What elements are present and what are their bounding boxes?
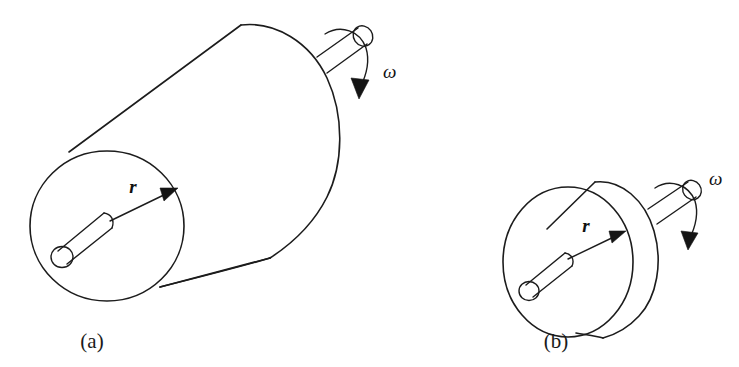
figure-container: ω (a) r — [0, 0, 739, 367]
panel-b-group: ω (b) r — [503, 168, 722, 353]
axle-b-upper-line — [526, 253, 565, 285]
omega-label-a: ω — [383, 61, 396, 82]
cylinder-a-front-axle-stub — [51, 213, 113, 268]
cylinder-a-front-face-circle — [30, 151, 184, 301]
disk-b-rear-cap-arc — [595, 182, 658, 338]
radius-label-b: r — [582, 215, 590, 236]
shaft-b-end-cap — [679, 177, 705, 204]
axle-a-end-cap — [51, 247, 73, 268]
cylinder-a-rear-cap-arc — [241, 25, 340, 258]
shaft-b-lower-line — [657, 197, 696, 224]
panel-a-group: ω (a) r — [30, 22, 396, 353]
radius-b-arrowhead — [609, 231, 626, 243]
omega-label-b: ω — [709, 168, 722, 189]
axle-b-end-cap — [519, 282, 539, 301]
disk-b-front-axle-stub — [519, 253, 573, 301]
radius-a-arrowhead — [160, 188, 178, 201]
radius-b-arrow-shaft — [568, 235, 618, 259]
rotation-a-arrowhead — [351, 78, 369, 99]
axle-b-near-cap — [565, 253, 573, 266]
rotation-b-arrowhead — [681, 231, 698, 250]
axle-a-lower-line — [67, 228, 112, 264]
cylinder-a-top-edge — [69, 25, 241, 152]
radius-label-a: r — [129, 176, 137, 197]
technical-figure-canvas: ω (a) r — [0, 0, 739, 367]
axle-a-upper-line — [58, 213, 104, 251]
radius-a-arrow-shaft — [110, 192, 170, 221]
caption-a: (a) — [80, 329, 103, 353]
shaft-a-lower-line — [327, 44, 367, 73]
shaft-a-end-cap — [349, 22, 377, 50]
cylinder-a-bottom-edge-extension — [160, 258, 270, 287]
caption-b: (b) — [544, 329, 569, 353]
